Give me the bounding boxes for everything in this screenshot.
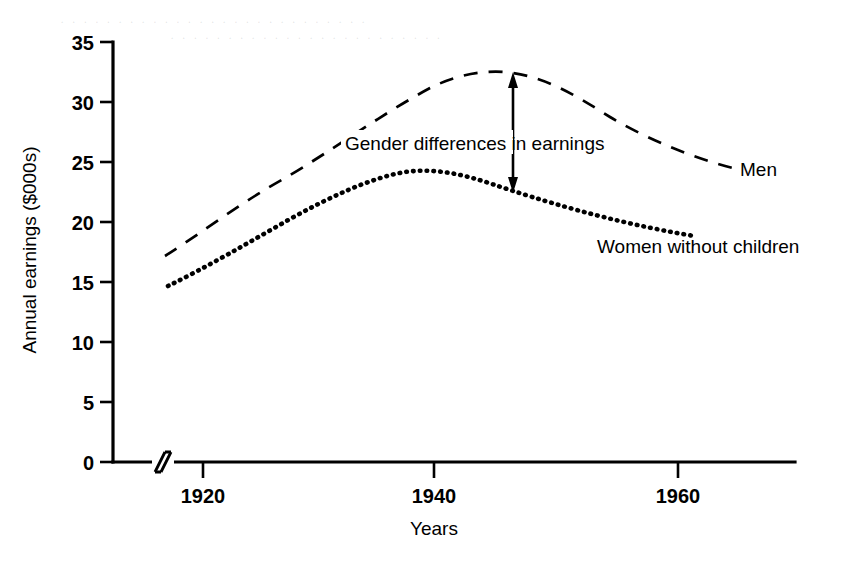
x-axis-title: Years (410, 518, 458, 539)
y-tick-label-10: 10 (72, 332, 94, 354)
x-tick-label-1960: 1960 (656, 485, 701, 507)
series-label-women-without-children: Women without children (597, 236, 799, 257)
x-axis-tick-labels: 1920 1940 1960 (181, 485, 701, 507)
y-tick-label-25: 25 (72, 152, 94, 174)
annotation-label-text: Gender differences in earnings (345, 133, 604, 154)
line-chart: 35 30 25 20 15 10 5 0 Annual earnings ($… (0, 0, 847, 566)
men-line (165, 72, 733, 256)
y-axis-tick-labels: 35 30 25 20 15 10 5 0 (72, 32, 94, 474)
y-tick-label-15: 15 (72, 272, 94, 294)
annotation-arrowhead-down (508, 177, 518, 193)
x-tick-label-1920: 1920 (181, 485, 226, 507)
y-axis-title: Annual earnings ($000s) (19, 146, 40, 353)
series-men (165, 72, 733, 256)
women-without-children-line (168, 171, 694, 286)
y-tick-label-0: 0 (83, 452, 94, 474)
series-label-men: Men (740, 159, 777, 180)
y-tick-label-20: 20 (72, 212, 94, 234)
chart-figure: · · · · · · · · · · · · · · · · · · · · … (0, 0, 847, 566)
x-tick-label-1940: 1940 (412, 485, 457, 507)
y-axis: 35 30 25 20 15 10 5 0 Annual earnings ($… (19, 32, 113, 474)
y-tick-label-5: 5 (83, 392, 94, 414)
series-women-without-children (168, 171, 694, 286)
x-axis-break-icon (152, 452, 174, 472)
y-tick-label-30: 30 (72, 92, 94, 114)
y-axis-ticks (100, 42, 113, 462)
y-tick-label-35: 35 (72, 32, 94, 54)
x-axis: 1920 1940 1960 Years (113, 452, 795, 539)
x-axis-ticks (203, 462, 678, 478)
